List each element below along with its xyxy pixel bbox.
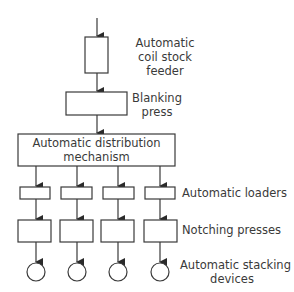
notching-press-box <box>144 220 177 242</box>
stacking-device-circle <box>109 263 127 281</box>
stacking-device-circle <box>151 263 169 281</box>
label-line: Automatic stacking <box>180 258 284 272</box>
label-line: Notching presses <box>182 223 281 237</box>
notching-press-box <box>60 220 93 242</box>
loader-box <box>61 187 92 199</box>
loader-box <box>145 187 175 199</box>
notching-label: Notching presses <box>182 223 281 237</box>
loaders-label: Automatic loaders <box>182 186 287 200</box>
stacking-label: Automatic stacking devices <box>180 258 284 286</box>
feeder-label: Automatic coil stock feeder <box>130 36 200 78</box>
label-line: Blanking <box>132 91 182 105</box>
column-2 <box>60 166 93 281</box>
feeder-box <box>85 37 108 73</box>
stacking-device-circle <box>27 263 45 281</box>
column-3 <box>101 166 134 281</box>
column-1 <box>18 166 51 281</box>
notching-press-box <box>101 220 134 242</box>
label-line: Automatic loaders <box>182 186 287 200</box>
label-line: coil stock <box>130 50 200 64</box>
loader-box <box>103 187 134 199</box>
label-line: press <box>132 105 182 119</box>
label-line: devices <box>180 272 284 286</box>
stacking-device-circle <box>68 263 86 281</box>
column-4 <box>144 166 177 281</box>
label-line: mechanism <box>18 150 175 164</box>
distribution-label: Automatic distribution mechanism <box>18 136 175 164</box>
blanking-press-box <box>66 92 127 115</box>
label-line: Automatic distribution <box>18 136 175 150</box>
loader-box <box>20 187 50 199</box>
notching-press-box <box>18 220 51 242</box>
blanking-label: Blanking press <box>132 91 182 119</box>
label-line: feeder <box>130 64 200 78</box>
label-line: Automatic <box>130 36 200 50</box>
